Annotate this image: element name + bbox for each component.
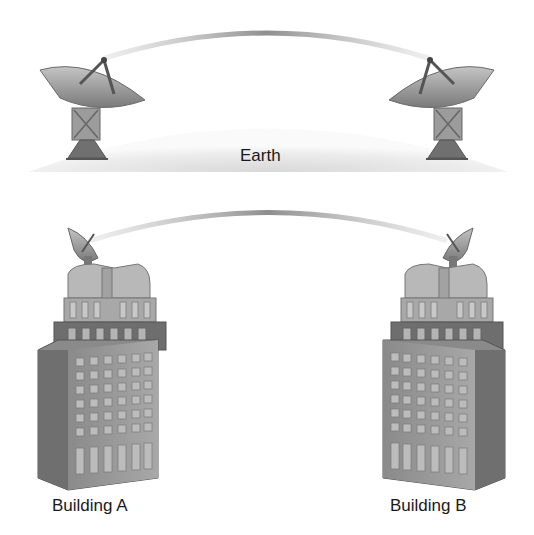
building-b-label: Building B [390,496,467,516]
diagram-canvas [0,0,534,535]
ground-link-beam [105,33,428,58]
building-a-icon [38,228,166,490]
earth-label: Earth [240,146,281,166]
building-link-beam [92,213,445,241]
building-b-icon [383,228,505,490]
building-a-label: Building A [52,496,128,516]
